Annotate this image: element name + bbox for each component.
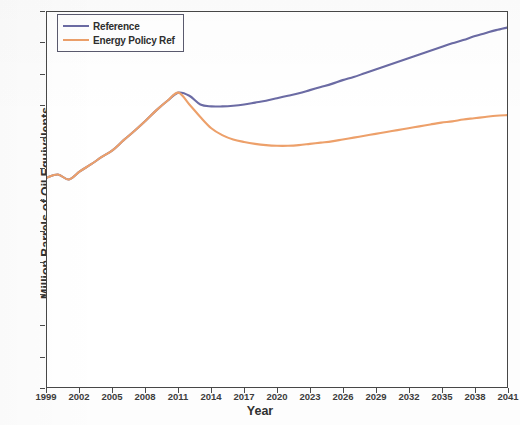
x-tick-mark	[46, 388, 47, 393]
y-tick-mark	[40, 388, 45, 389]
x-tick-mark	[475, 388, 476, 393]
y-tick-mark	[40, 294, 45, 295]
x-tick-mark	[211, 388, 212, 393]
legend-label-reference: Reference	[93, 21, 140, 32]
plot-area	[46, 11, 508, 388]
y-tick-mark	[40, 325, 45, 326]
y-tick-mark	[40, 231, 45, 232]
y-tick-mark	[40, 11, 45, 12]
x-tick-mark	[508, 388, 509, 393]
y-tick-mark	[40, 42, 45, 43]
x-tick-mark	[376, 388, 377, 393]
x-tick-mark	[277, 388, 278, 393]
y-tick-mark	[40, 74, 45, 75]
x-tick-mark	[145, 388, 146, 393]
x-tick-mark	[343, 388, 344, 393]
chart-figure: Million Barrels of Oil Equivalents 05101…	[0, 0, 520, 425]
y-tick-mark	[40, 105, 45, 106]
x-tick-mark	[79, 388, 80, 393]
x-tick-mark	[409, 388, 410, 393]
x-tick-label: 2041	[480, 391, 520, 402]
x-axis-title: Year	[0, 404, 520, 418]
y-tick-mark	[40, 200, 45, 201]
series-line-energy-policy-ref	[47, 93, 507, 180]
x-tick-mark	[244, 388, 245, 393]
legend-swatch-reference	[63, 25, 89, 27]
y-tick-mark	[40, 168, 45, 169]
y-tick-mark	[40, 262, 45, 263]
y-tick-mark	[40, 137, 45, 138]
x-tick-mark	[178, 388, 179, 393]
x-tick-mark	[112, 388, 113, 393]
legend-swatch-energy-policy-ref	[63, 39, 89, 41]
x-tick-mark	[442, 388, 443, 393]
y-tick-mark	[40, 357, 45, 358]
legend-item-energy-policy-ref: Energy Policy Ref	[63, 33, 175, 47]
legend-item-reference: Reference	[63, 19, 175, 33]
x-tick-mark	[310, 388, 311, 393]
legend-label-energy-policy-ref: Energy Policy Ref	[93, 35, 175, 46]
chart-legend: Reference Energy Policy Ref	[57, 14, 184, 52]
series-canvas	[47, 12, 507, 387]
